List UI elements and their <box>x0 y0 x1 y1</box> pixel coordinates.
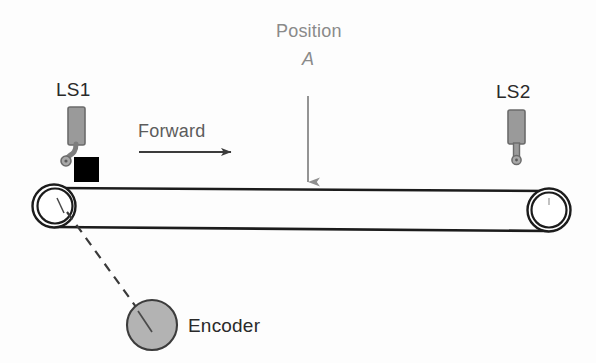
limit-switch-ls2[interactable] <box>508 110 525 165</box>
pulley-right-inner-circle <box>532 193 567 228</box>
conveyor-belt <box>54 188 549 231</box>
ls1-roller-pin <box>64 159 67 162</box>
belt-bottom-line <box>54 227 549 231</box>
encoder-body <box>127 300 177 350</box>
belt-top-line <box>54 188 549 191</box>
label-position: Position <box>276 22 342 40</box>
ls1-body <box>68 107 85 145</box>
label-position-marker: A <box>302 50 314 68</box>
ls2-body <box>508 110 525 144</box>
workpiece-block <box>74 157 99 182</box>
pulley-left-inner-circle <box>38 189 73 224</box>
label-ls2: LS2 <box>496 82 531 101</box>
label-ls1: LS1 <box>56 80 91 99</box>
label-forward: Forward <box>138 122 205 140</box>
pulley-right <box>528 189 571 232</box>
ls2-plunger-pin <box>515 159 518 162</box>
label-encoder: Encoder <box>188 316 260 335</box>
pulley-left <box>33 185 76 228</box>
encoder[interactable] <box>127 300 177 350</box>
conveyor-diagram: LS1 LS2 Forward Position A Encoder <box>0 0 596 363</box>
diagram-canvas <box>0 0 596 363</box>
